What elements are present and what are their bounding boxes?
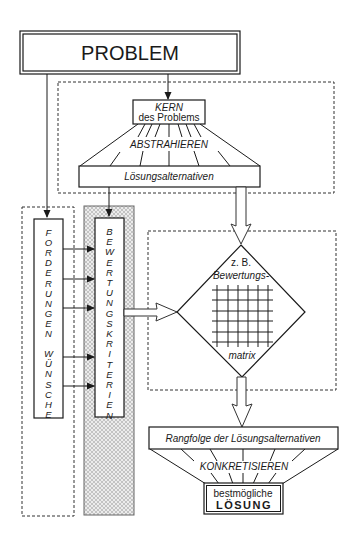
core-problem-box: KERN des Problems (133, 100, 205, 124)
solution-alternatives-box: Lösungsalternativen (79, 166, 260, 187)
criteria-letter: N (106, 410, 113, 421)
bewertungs-label: Bewertungs- (213, 270, 270, 281)
problem-label: PROBLEM (81, 42, 179, 64)
evaluation-criteria-box: BEWERTUNGSKRITERIEN (95, 218, 124, 421)
matrix-to-ranking-arrow (232, 377, 252, 427)
requirements-letter: E (45, 409, 52, 420)
ranking-box: Rangfolge der Lösungsalternativen (149, 427, 338, 449)
loesungsalternativen-label: Lösungsalternativen (124, 171, 214, 182)
best-solution-box: bestmögliche LÖSUNG (204, 483, 283, 514)
rangfolge-label: Rangfolge der Lösungsalternativen (165, 433, 321, 444)
problem-box: PROBLEM (20, 31, 240, 74)
concretization-funnel: KONKRETISIEREN (150, 449, 338, 484)
des-problems-label: des Problems (138, 112, 199, 123)
alternatives-to-matrix-arrow (231, 187, 251, 244)
loesung-label: LÖSUNG (216, 499, 272, 511)
bestmoegliche-label: bestmögliche (214, 488, 273, 499)
problem-solving-flowchart: PROBLEM ABSTRAHIEREN KERN des Problems L… (0, 0, 357, 550)
abstrahieren-label: ABSTRAHIEREN (129, 139, 209, 150)
abstraction-funnel: ABSTRAHIEREN (80, 124, 260, 166)
evaluation-matrix-diamond: z. B. Bewertungs- matrix (177, 245, 305, 377)
matrix-label: matrix (228, 350, 256, 361)
konkretisieren-label: KONKRETISIEREN (200, 461, 289, 472)
requirements-box: FORDERUNGENWÜNSCHE (34, 219, 63, 420)
zb-label: z. B. (231, 257, 251, 268)
requirements-letter: N (45, 328, 52, 339)
